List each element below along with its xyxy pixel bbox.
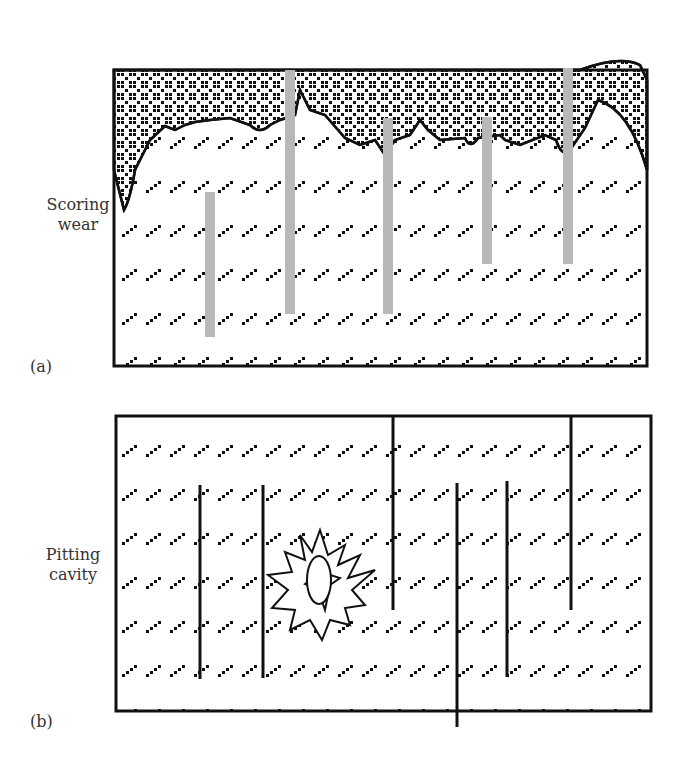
panel-b (116, 416, 651, 727)
panel-a (114, 61, 647, 366)
diagram-canvas (0, 0, 683, 764)
